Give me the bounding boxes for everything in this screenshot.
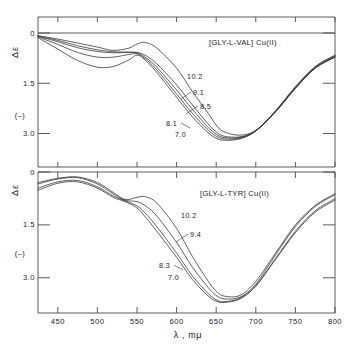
x-tick-label-550: 550 xyxy=(130,317,144,326)
lower-panel-title: [GLY-L-TYR] Cu(II) xyxy=(200,189,269,198)
x-tick-label-800: 800 xyxy=(328,317,342,326)
cd-spectra-figure: 01.53.0 Δε (–) [GLY-L-VAL] Cu(II) 10.29.… xyxy=(0,0,356,346)
upper-y-negative-marker: (–) xyxy=(15,111,26,120)
lower-panel-frame xyxy=(38,172,335,313)
curve-ph-9.4 xyxy=(38,177,335,299)
curve-ph-10.2 xyxy=(38,177,335,297)
x-tick-label-600: 600 xyxy=(170,317,184,326)
lower-y-negative-marker: (–) xyxy=(15,249,26,258)
lower-y-ticks xyxy=(38,172,335,278)
curve-label-ph-8.3: 8.3 xyxy=(159,261,170,270)
curve-label-ph-7.0: 7.0 xyxy=(175,130,186,139)
x-tick-label-750: 750 xyxy=(288,317,302,326)
curve-ph-8.3 xyxy=(38,180,335,302)
leader-line-ph-9.1 xyxy=(181,92,191,99)
leader-line-ph-8.1 xyxy=(181,123,190,128)
curve-label-ph-8.1: 8.1 xyxy=(166,119,177,128)
y-tick-label-3.0: 3.0 xyxy=(23,129,35,138)
leader-line-ph-8.3 xyxy=(174,265,183,270)
upper-y-axis-symbol: Δε xyxy=(10,46,20,58)
upper-curves xyxy=(38,36,335,141)
x-axis-title: λ , mμ xyxy=(174,330,202,340)
upper-panel-title: [GLY-L-VAL] Cu(II) xyxy=(209,38,277,47)
curve-ph-7.0 xyxy=(38,38,335,141)
lower-curves xyxy=(38,177,335,303)
curve-label-ph-8.5: 8.5 xyxy=(200,102,211,111)
upper-panel-title-box: [GLY-L-VAL] Cu(II) xyxy=(209,38,277,47)
x-tick-label-450: 450 xyxy=(51,317,65,326)
lower-y-axis-symbol: Δε xyxy=(10,184,20,196)
curve-ph-7.0 xyxy=(38,182,335,303)
curve-label-ph-10.2: 10.2 xyxy=(181,211,197,220)
y-tick-label-1.5: 1.5 xyxy=(23,220,35,229)
curve-label-ph-7.0: 7.0 xyxy=(168,273,179,282)
y-tick-label-3.0: 3.0 xyxy=(23,273,35,282)
lower-x-tick-labels: 450500550600650700750800 xyxy=(51,317,342,326)
lower-x-ticks xyxy=(58,172,335,313)
plot-canvas: 01.53.0 Δε (–) [GLY-L-VAL] Cu(II) 10.29.… xyxy=(0,0,356,346)
lower-curve-labels: 10.29.48.37.0 xyxy=(159,211,201,282)
upper-panel: 01.53.0 Δε (–) [GLY-L-VAL] Cu(II) 10.29.… xyxy=(10,17,335,167)
y-tick-label-0: 0 xyxy=(30,168,35,177)
curve-label-ph-9.1: 9.1 xyxy=(193,88,204,97)
x-tick-label-700: 700 xyxy=(249,317,263,326)
y-tick-label-0: 0 xyxy=(30,29,35,38)
lower-frame-lines xyxy=(38,172,335,313)
leader-line-ph-9.4 xyxy=(176,234,188,242)
curve-ph-9.1 xyxy=(38,36,335,137)
curve-label-ph-9.4: 9.4 xyxy=(190,230,201,239)
x-tick-label-500: 500 xyxy=(90,317,104,326)
lower-panel: 01.53.0 450500550600650700750800 Δε (–) … xyxy=(10,168,342,340)
upper-y-tick-labels: 01.53.0 xyxy=(23,29,35,139)
curve-label-ph-10.2: 10.2 xyxy=(187,72,203,81)
upper-y-ticks xyxy=(38,33,335,134)
lower-y-tick-labels: 01.53.0 xyxy=(23,168,35,283)
y-tick-label-1.5: 1.5 xyxy=(23,79,35,88)
x-tick-label-650: 650 xyxy=(209,317,223,326)
curve-ph-10.2 xyxy=(38,36,335,136)
curve-ph-8.1 xyxy=(38,37,335,139)
curve-ph-8.5 xyxy=(38,36,335,138)
